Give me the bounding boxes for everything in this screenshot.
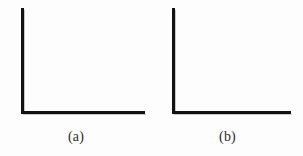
horizontal-axis-line-b: [172, 111, 291, 114]
l-shape-diagram-a: [21, 8, 145, 114]
horizontal-axis-shadow-b: [174, 114, 292, 115]
horizontal-axis-shadow-a: [23, 114, 146, 115]
vertical-axis-line-a: [21, 8, 24, 114]
horizontal-axis-line-a: [21, 111, 145, 114]
vertical-axis-line-b: [172, 8, 175, 114]
l-shape-diagram-b: [172, 8, 291, 114]
figure-panel-a: (a): [0, 0, 152, 156]
vertical-axis-shadow-b: [175, 10, 176, 113]
figure-panel-b: (b): [152, 0, 303, 156]
vertical-axis-shadow-a: [24, 10, 25, 113]
panel-caption-a: (a): [0, 128, 152, 146]
figure-container: (a) (b): [0, 0, 303, 156]
panel-caption-b: (b): [152, 128, 303, 146]
